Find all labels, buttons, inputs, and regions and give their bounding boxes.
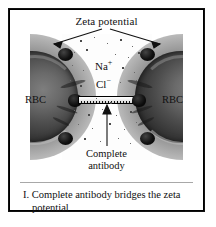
label-rbc-right: RBC: [162, 94, 183, 105]
caption-line-1: I. Complete antibody bridges the zeta: [23, 189, 180, 200]
arrow-up-head-icon: [103, 105, 111, 114]
figure-caption: I. Complete antibody bridges the zeta po…: [23, 188, 195, 214]
label-sodium-ion: Na+: [95, 58, 112, 72]
arrow-down-left-head-icon: [54, 42, 62, 48]
label-chloride-ion: Cl−: [96, 76, 111, 90]
caption-line-2: potential: [23, 201, 195, 214]
caption-divider: [20, 182, 193, 183]
figure-illustration: Zeta potential: [10, 10, 203, 178]
label-rbc-left: RBC: [25, 94, 46, 105]
figure-frame: Zeta potential: [8, 8, 205, 212]
label-complete-antibody: Complete antibody: [10, 148, 203, 172]
arrow-down-right-head-icon: [152, 42, 160, 48]
